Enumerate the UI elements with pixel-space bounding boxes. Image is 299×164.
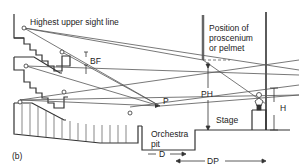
actor-figure-icon <box>255 93 263 111</box>
proscenium-label-line1: Position of <box>209 24 249 33</box>
dp-label: DP <box>207 157 219 164</box>
proscenium-label-line2: proscenium <box>209 34 253 43</box>
d-label: D <box>159 150 165 159</box>
stage-label: Stage <box>216 116 238 125</box>
p-label: P <box>163 97 169 106</box>
panel-label: (b) <box>12 152 22 161</box>
h-label: H <box>280 104 286 113</box>
ph-label: PH <box>201 90 213 99</box>
auditorium-section-diagram: Highest upper sight line Position of pro… <box>0 0 299 164</box>
highest-sight-line-label: Highest upper sight line <box>30 18 119 27</box>
orchestra-label-line1: Orchestra <box>151 130 188 139</box>
bf-label: BF <box>90 57 101 66</box>
proscenium-label-line3: or pelmet <box>209 44 244 53</box>
orchestra-label-line2: pit <box>151 140 160 149</box>
